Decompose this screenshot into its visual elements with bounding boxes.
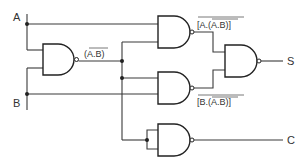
junction-g1-g3: [120, 76, 124, 80]
nand-gate-4: [225, 45, 257, 77]
g1-output-label: (A.B): [84, 49, 105, 59]
input-b-label: B: [13, 97, 20, 109]
wire-g3-to-g4: [194, 70, 225, 88]
junction-b: [25, 92, 29, 96]
output-c-label: C: [287, 134, 295, 146]
nand-gate-5: [158, 124, 190, 156]
nand-gate-5-bubble: [190, 138, 194, 142]
junction-g5-inputs: [145, 138, 149, 142]
wire-g2-to-g4: [194, 32, 225, 52]
input-a-label: A: [13, 11, 21, 23]
nand-gate-1: [43, 44, 74, 75]
output-s-label: S: [287, 55, 294, 67]
nand-gate-3: [158, 72, 190, 104]
nand-gate-1-bubble: [75, 58, 79, 62]
junction-g1-out: [120, 59, 124, 63]
g3-output-label: [B.(A.B)]: [197, 97, 231, 107]
nand-gate-3-bubble: [190, 86, 194, 90]
nand-gate-4-bubble: [257, 59, 261, 63]
nand-gate-2-bubble: [190, 30, 194, 34]
g2-output-label: [A.(A.B)]: [197, 20, 231, 30]
half-adder-nand-diagram: A B (A.B) [A.(A.B)] [B.(A.B)] S C: [0, 0, 306, 161]
nand-gate-2: [158, 16, 190, 48]
junction-a: [25, 22, 29, 26]
